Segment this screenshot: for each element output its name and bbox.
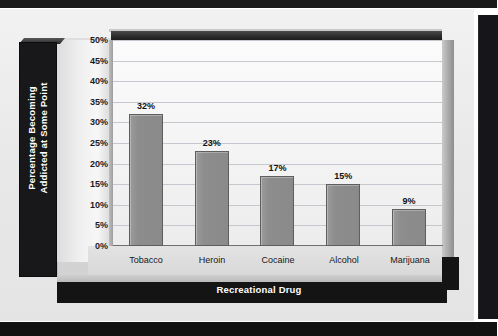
y-axis-tick-label: 5% — [63, 220, 111, 230]
bar-cocaine[interactable] — [260, 176, 294, 246]
bar-value-label: 17% — [268, 163, 286, 173]
bar-group: 32% — [113, 40, 179, 246]
x-axis-label-heroin: Heroin — [179, 249, 245, 271]
y-axis-tick-label: 15% — [63, 179, 111, 189]
bar-alcohol[interactable] — [326, 184, 360, 246]
bar-group: 15% — [310, 40, 376, 246]
top-dark-band — [0, 0, 497, 8]
x-axis-category-labels: TobaccoHeroinCocaineAlcoholMarijuana — [113, 249, 443, 271]
bar-value-label: 15% — [334, 171, 352, 181]
plot-top-bevel — [111, 31, 442, 40]
x-axis-label-alcohol: Alcohol — [311, 249, 377, 271]
y-axis-title: Percentage Becoming Addicted at Some Poi… — [26, 32, 50, 244]
y-axis-tick-labels: 50%45%40%35%30%25%20%15%10%5%0% — [57, 40, 111, 246]
y-axis-tick-label: 35% — [63, 97, 111, 107]
bar-layer: 32%23%17%15%9% — [113, 40, 442, 246]
y-axis-tick-label: 25% — [63, 138, 111, 148]
right-dark-panel — [478, 15, 498, 319]
y-axis-tick-label: 40% — [63, 76, 111, 86]
bar-value-label: 23% — [203, 138, 221, 148]
x-axis-label-cocaine: Cocaine — [245, 249, 311, 271]
bar-tobacco[interactable] — [129, 114, 163, 246]
y-axis-tick-label: 20% — [63, 159, 111, 169]
x-axis-title: Recreational Drug — [73, 284, 445, 295]
bar-chart-figure: 32%23%17%15%9% TobaccoHeroinCocaineAlcoh… — [13, 21, 459, 304]
y-axis-title-panel: Percentage Becoming Addicted at Some Poi… — [19, 42, 57, 277]
bar-group: 17% — [245, 40, 311, 246]
y-axis-tick-label: 50% — [63, 35, 111, 45]
x-axis-label-tobacco: Tobacco — [113, 249, 179, 271]
x-axis-label-marijuana: Marijuana — [377, 249, 443, 271]
bar-value-label: 9% — [403, 196, 416, 206]
bar-group: 23% — [179, 40, 245, 246]
bar-group: 9% — [376, 40, 442, 246]
y-axis-tick-label: 0% — [63, 241, 111, 251]
y-axis-tick-label: 10% — [63, 200, 111, 210]
y-axis-tick-label: 30% — [63, 117, 111, 127]
y-axis-tick-label: 45% — [63, 56, 111, 66]
bar-marijuana[interactable] — [392, 209, 426, 246]
bar-value-label: 32% — [137, 101, 155, 111]
bottom-dark-band — [0, 322, 497, 336]
bar-heroin[interactable] — [195, 151, 229, 246]
plot-right-depth — [442, 40, 454, 266]
